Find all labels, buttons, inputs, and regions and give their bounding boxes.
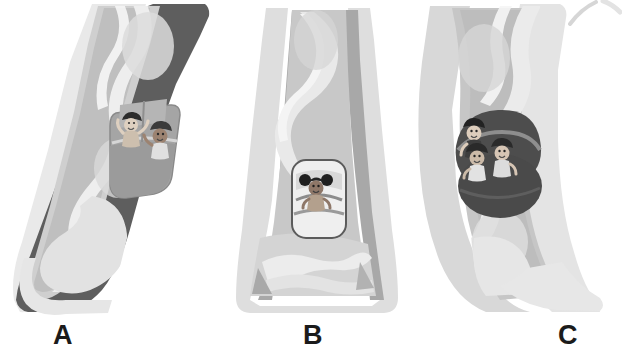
rider-eye-right xyxy=(503,150,505,152)
rider-eye-right xyxy=(478,155,480,157)
three-slides-figure xyxy=(0,0,622,355)
rider-torso xyxy=(151,143,169,160)
rider-eye-right xyxy=(475,130,477,132)
rider-eye-left xyxy=(312,185,314,187)
rider-head xyxy=(467,126,482,141)
rider-eye-right xyxy=(162,133,164,135)
slide-b-foam-top xyxy=(294,10,338,70)
rider-head xyxy=(309,181,324,196)
illustration-canvas: A B C xyxy=(0,0,622,355)
panel-label-c: C xyxy=(558,322,578,349)
rider-eye-right xyxy=(317,185,319,187)
rider-eye-left xyxy=(470,130,472,132)
corner-slide-fragment xyxy=(570,1,620,24)
rider-torso xyxy=(307,195,325,212)
panel-label-a: A xyxy=(53,322,73,349)
slide-c-foam-blob-1 xyxy=(458,24,510,92)
rider-torso xyxy=(122,131,140,148)
rider-head xyxy=(153,129,168,144)
rider-eye-left xyxy=(128,122,130,124)
rider-hair-bun-right xyxy=(321,174,333,186)
rider-eye-left xyxy=(157,133,159,135)
rider-eye-left xyxy=(473,155,475,157)
slide-panel-c xyxy=(418,4,603,312)
rider-eye-right xyxy=(133,122,135,124)
slide-a-ride-car xyxy=(110,99,180,198)
rider-head xyxy=(470,151,485,166)
rider-eye-left xyxy=(498,150,500,152)
rider-head xyxy=(495,146,510,161)
rider-torso xyxy=(493,160,511,178)
panel-label-b: B xyxy=(303,322,323,349)
slide-panel-b xyxy=(236,8,398,313)
rider-torso xyxy=(468,165,486,182)
rider-hair-bun-left xyxy=(299,174,311,186)
slide-a-foam-blob-1 xyxy=(122,12,174,80)
slide-panel-a xyxy=(13,2,209,315)
